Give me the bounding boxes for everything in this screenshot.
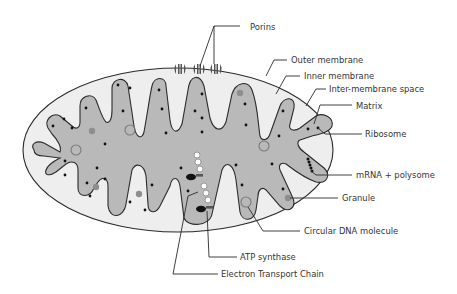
label-outer-membrane: Outer membrane [291,55,363,65]
mitochondrion-diagram: Porins Outer membrane Inner membrane Int… [0,0,457,294]
label-electron-transport-chain: Electron Transport Chain [221,269,324,279]
label-ribosome: Ribosome [365,129,406,139]
label-matrix: Matrix [356,101,382,111]
label-granule: Granule [342,193,375,203]
label-inner-membrane: Inner membrane [304,71,374,81]
porins [175,64,222,74]
label-porins: Porins [250,22,275,32]
label-mrna-polysome: mRNA + polysome [356,170,435,180]
label-atp-synthase: ATP synthase [240,252,296,262]
label-circular-dna: Circular DNA molecule [304,226,398,236]
label-intermembrane-space: Inter-membrane space [329,84,424,94]
